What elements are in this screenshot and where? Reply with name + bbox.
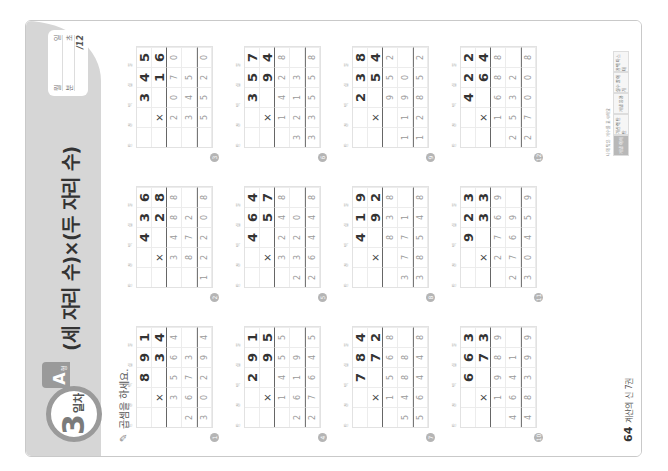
total-digit: 2 <box>197 67 212 87</box>
partial2-digit: 4 <box>506 367 521 387</box>
place-label: 만 <box>127 128 133 148</box>
total-digit: 5 <box>305 67 320 87</box>
total-digit: 0 <box>521 67 536 87</box>
multiplicand-digit <box>245 267 260 287</box>
partial1-digit: 5 <box>275 347 290 367</box>
total-digit: 7 <box>305 387 320 407</box>
multiplier-digit: 4 <box>368 47 383 67</box>
place-label: 천 <box>343 108 349 128</box>
multiplicand-digit <box>353 127 368 147</box>
partial2-digit: 7 <box>506 247 521 267</box>
multiplier-digit: 6 <box>476 67 491 87</box>
total-digit: 0 <box>521 247 536 267</box>
multiplier-digit: 2 <box>152 207 167 227</box>
place-label: 백 <box>235 368 241 388</box>
place-label: 백 <box>343 228 349 248</box>
multiplicand-digit <box>137 407 152 427</box>
partial2-digit: 2 <box>506 127 521 147</box>
problem-number: 2 <box>210 293 219 302</box>
multiplication-grid: 357×941428321333558 <box>244 46 321 148</box>
multiplicand-digit: 2 <box>461 207 476 227</box>
multiplication-grid: 238×54952119012852 <box>352 46 429 148</box>
total-digit: 8 <box>413 87 428 107</box>
multiplicand-digit <box>461 267 476 287</box>
total-digit: 5 <box>305 87 320 107</box>
total-digit: 2 <box>197 227 212 247</box>
place-label: 백 <box>127 228 133 248</box>
stamp-time-row: 분 초 <box>63 35 75 91</box>
times-operator: × <box>368 107 383 127</box>
multiplicand-digit <box>245 247 260 267</box>
partial2-digit: 5 <box>182 67 197 87</box>
partial1-digit: 6 <box>167 347 182 367</box>
partial1-digit: 7 <box>167 67 182 87</box>
multiplicand-digit: 1 <box>245 327 260 347</box>
partial1-digit <box>383 407 398 427</box>
worksheet-page: 3 일차 A 형 (세 자리 수)×(두 자리 수) 월 일 분 초 /12 ✎… <box>26 21 641 456</box>
multiplicand-digit <box>353 387 368 407</box>
total-digit: 4 <box>305 227 320 247</box>
multiplier-digit <box>260 127 275 147</box>
place-label: 일 <box>343 188 349 208</box>
multiplier-digit: 5 <box>260 327 275 347</box>
partial1-digit: 9 <box>491 367 506 387</box>
partial2-digit: 2 <box>182 407 197 427</box>
multiplicand-digit <box>137 127 152 147</box>
total-digit: 4 <box>413 367 428 387</box>
total-digit: 5 <box>413 67 428 87</box>
place-label: 백 <box>451 88 457 108</box>
problem-11: 만천백십일923×33276927693045911 <box>458 172 544 302</box>
day-number: 3 <box>59 414 89 435</box>
partial1-digit <box>491 127 506 147</box>
partial1-digit: 4 <box>275 87 290 107</box>
total-digit: 5 <box>197 107 212 127</box>
multiplicand-digit: 3 <box>245 87 260 107</box>
total-digit: 2 <box>413 107 428 127</box>
multiplier-digit <box>152 127 167 147</box>
partial2-digit <box>182 267 197 287</box>
place-value-labels: 만천백십일 <box>235 188 241 288</box>
type-tab: A 형 <box>42 362 70 388</box>
multiplicand-digit: 4 <box>245 187 260 207</box>
total-digit: 2 <box>305 407 320 427</box>
partial2-digit: 0 <box>398 67 413 87</box>
total-digit: 4 <box>521 227 536 247</box>
stamp-seconds: 초 <box>64 35 74 41</box>
place-label: 일 <box>235 48 241 68</box>
worksheet-frame: 3 일차 A 형 (세 자리 수)×(두 자리 수) 월 일 분 초 /12 ✎… <box>25 20 642 457</box>
partial1-digit: 2 <box>383 47 398 67</box>
partial2-digit: 7 <box>182 367 197 387</box>
partial2-digit <box>182 127 197 147</box>
partial2-digit <box>290 187 305 207</box>
multiplication-grid: 663×731989464148399 <box>460 326 537 428</box>
stamp-date-row: 월 일 <box>51 35 63 91</box>
page-title: (세 자리 수)×(두 자리 수) <box>56 146 83 351</box>
partial1-digit: 1 <box>383 387 398 407</box>
multiplier-digit: 9 <box>260 67 275 87</box>
multiplicand-digit: 2 <box>353 87 368 107</box>
day-suffix: 일차 <box>70 393 86 413</box>
total-digit: 6 <box>305 247 320 267</box>
place-label: 만 <box>235 128 241 148</box>
place-label: 십 <box>451 68 457 88</box>
partial1-digit: 4 <box>275 367 290 387</box>
partial2-digit: 3 <box>290 127 305 147</box>
multiplication-grid: 923×332769276930459 <box>460 186 537 288</box>
multiplier-digit: 7 <box>260 187 275 207</box>
multiplication-grid: 891×343564267330294 <box>136 326 213 428</box>
total-digit: 3 <box>521 367 536 387</box>
problem-3: 만천백십일345×16207034555203 <box>134 32 220 162</box>
place-label: 천 <box>451 248 457 268</box>
problem-number: 3 <box>210 153 219 162</box>
partial1-digit <box>491 407 506 427</box>
place-label: 천 <box>343 388 349 408</box>
partial1-digit: 8 <box>275 47 290 67</box>
total-digit: 0 <box>197 387 212 407</box>
partial2-digit <box>182 187 197 207</box>
total-digit: 8 <box>413 327 428 347</box>
total-digit: 5 <box>305 327 320 347</box>
times-operator: × <box>152 107 167 127</box>
partial1-digit: 8 <box>383 227 398 247</box>
multiplier-digit <box>476 87 491 107</box>
times-operator: × <box>260 107 275 127</box>
